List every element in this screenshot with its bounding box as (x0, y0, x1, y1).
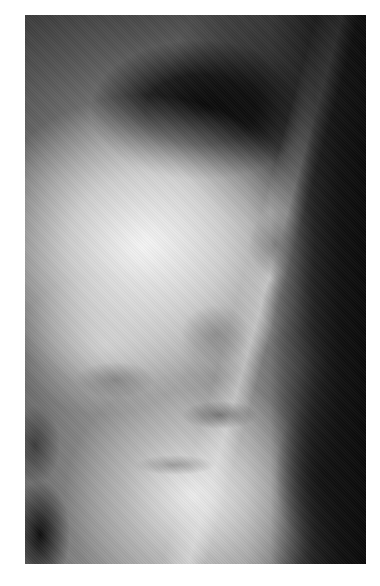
xray-image (25, 15, 366, 564)
film-grain (25, 15, 366, 564)
